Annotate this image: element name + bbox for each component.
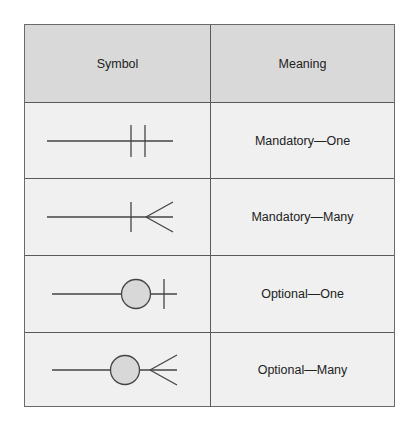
optional-many-icon — [25, 333, 210, 407]
symbol-cell — [25, 179, 211, 255]
meaning-cell: Optional—Many — [211, 333, 394, 407]
mandatory-one-icon — [25, 103, 210, 179]
table-row: Optional—One — [25, 255, 394, 332]
meaning-cell: Mandatory—Many — [211, 179, 394, 255]
symbol-cell — [25, 333, 211, 407]
header-symbol: Symbol — [25, 25, 211, 102]
meaning-cell: Mandatory—One — [211, 103, 394, 179]
symbol-cell — [25, 256, 211, 332]
table-row: Mandatory—Many — [25, 178, 394, 255]
meaning-cell: Optional—One — [211, 256, 394, 332]
table-header-row: Symbol Meaning — [25, 25, 394, 102]
mandatory-many-icon — [25, 179, 210, 255]
header-meaning: Meaning — [211, 25, 394, 102]
table-row: Optional—Many — [25, 332, 394, 407]
optional-one-icon — [25, 256, 210, 332]
table-row: Mandatory—One — [25, 102, 394, 179]
symbol-cell — [25, 103, 211, 179]
notation-table: Symbol Meaning Mandatory—One Mandatory—M… — [24, 24, 395, 407]
